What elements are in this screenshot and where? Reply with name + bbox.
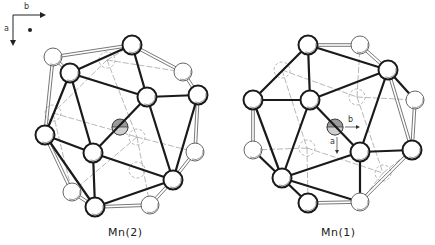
front-atom [351, 143, 370, 162]
front-atom [244, 91, 263, 110]
axis-a-arrow-icon [10, 40, 16, 46]
front-atom [273, 169, 292, 188]
axis-a-label: a [4, 24, 9, 33]
mn1-inner-b-label: b [348, 115, 353, 124]
outer-atom [351, 36, 369, 54]
outer-atom [244, 141, 262, 159]
front-atom [299, 36, 318, 55]
front-atom [164, 171, 183, 190]
front-atom [61, 64, 80, 83]
front-atom [36, 126, 55, 145]
outer-atom [44, 48, 62, 66]
front-atom [301, 91, 320, 110]
front-atom [299, 194, 318, 213]
mn1-caption: Mn(1) [321, 226, 356, 239]
outer-atom [63, 183, 81, 201]
front-atom [379, 61, 398, 80]
axis-dot-icon [28, 28, 32, 32]
mn1-structure [244, 36, 425, 213]
outer-atom [186, 143, 204, 161]
mn1-inner-a-label: a [330, 137, 335, 146]
outer-atom [174, 63, 192, 81]
crystal-structure-figure [0, 0, 435, 245]
outer-atom [351, 193, 369, 211]
front-atom [86, 198, 105, 217]
axis-key [10, 12, 46, 46]
mn2-structure [36, 36, 208, 217]
axis-b-label: b [24, 2, 29, 11]
front-atom [123, 36, 142, 55]
front-atom [138, 88, 157, 107]
outer-atom [406, 91, 424, 109]
axis-b-arrow-icon [40, 12, 46, 18]
outer-atom [141, 196, 159, 214]
mn2-caption: Mn(2) [108, 226, 143, 239]
front-atom [189, 86, 208, 105]
front-atom [84, 144, 103, 163]
front-atom [403, 141, 422, 160]
